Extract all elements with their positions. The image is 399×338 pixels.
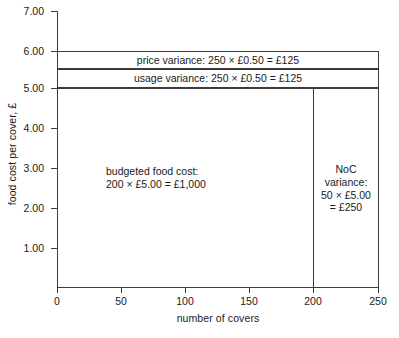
variance-chart: food cost per cover, £ number of covers … bbox=[0, 0, 399, 338]
budgeted-food-cost-label: budgeted food cost: 200 × £5.00 = £1,000 bbox=[106, 165, 276, 190]
y-tick-label: 5.00 bbox=[0, 83, 44, 93]
x-axis-title: number of covers bbox=[57, 312, 379, 324]
y-tick-label: 6.00 bbox=[0, 46, 44, 56]
x-tick-label: 150 bbox=[229, 295, 269, 307]
x-tick-label: 100 bbox=[165, 295, 205, 307]
y-tick-label: 1.00 bbox=[0, 243, 44, 253]
noc-variance-label: NoC variance: 50 × £5.00 = £250 bbox=[313, 163, 379, 214]
x-tick-label: 250 bbox=[358, 295, 398, 307]
price-variance-label: price variance: 250 × £0.50 = £125 bbox=[57, 54, 379, 67]
x-tick-label: 50 bbox=[101, 295, 141, 307]
y-tick-label: 4.00 bbox=[0, 123, 44, 133]
x-tick-label: 200 bbox=[293, 295, 333, 307]
usage-variance-label: usage variance: 250 × £0.50 = £125 bbox=[57, 72, 379, 85]
y-tick-label: 7.00 bbox=[0, 6, 44, 16]
y-tick-mark bbox=[51, 11, 57, 12]
x-tick-label: 0 bbox=[37, 295, 77, 307]
y-tick-label: 2.00 bbox=[0, 203, 44, 213]
y-tick-label: 3.00 bbox=[0, 163, 44, 173]
